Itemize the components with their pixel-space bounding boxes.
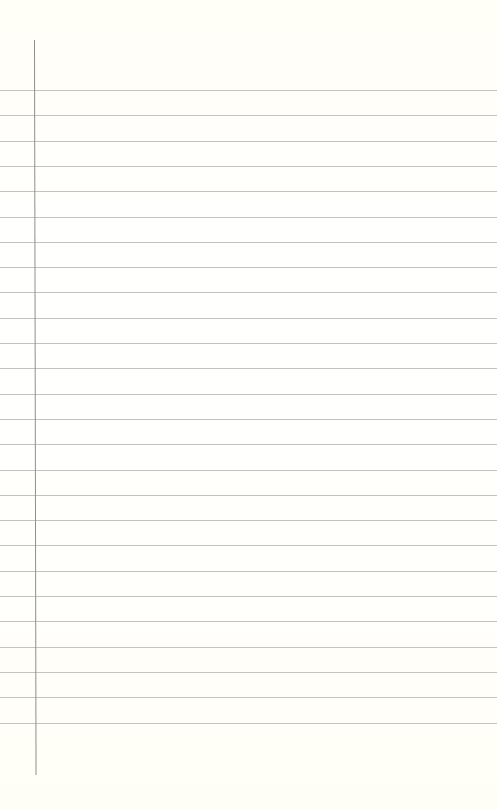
ruled-line [0, 545, 497, 546]
ruled-line [0, 217, 497, 218]
ruled-line [0, 444, 497, 445]
ruled-line [0, 571, 497, 572]
ruled-line [0, 520, 497, 521]
ruled-line [0, 191, 497, 192]
ruled-line [0, 318, 497, 319]
ruled-line [0, 343, 497, 344]
ruled-line [0, 419, 497, 420]
ruled-line [0, 115, 497, 116]
ruled-line [0, 621, 497, 622]
ruled-line [0, 495, 497, 496]
ruled-line [0, 90, 497, 91]
ruled-line [0, 141, 497, 142]
lined-paper [0, 0, 497, 810]
ruled-line [0, 470, 497, 471]
ruled-line [0, 672, 497, 673]
ruled-line [0, 267, 497, 268]
ruled-line [0, 723, 497, 724]
margin-line [34, 40, 37, 775]
ruled-line [0, 368, 497, 369]
ruled-line [0, 596, 497, 597]
ruled-line [0, 697, 497, 698]
ruled-line [0, 292, 497, 293]
ruled-line [0, 242, 497, 243]
ruled-line [0, 394, 497, 395]
ruled-line [0, 647, 497, 648]
ruled-line [0, 166, 497, 167]
